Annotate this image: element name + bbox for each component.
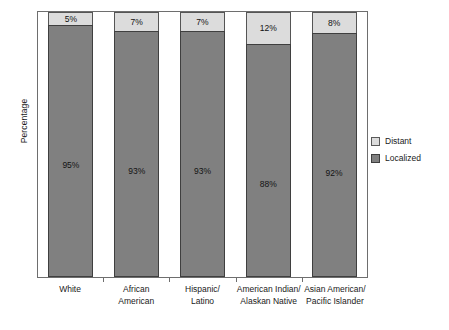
bar-segment-localized[interactable]: 93%	[180, 31, 225, 277]
bar-stack: 7% 93%	[180, 12, 225, 277]
x-axis-label-white: White	[37, 284, 103, 307]
bar-segment-distant[interactable]: 12%	[246, 12, 291, 44]
bar-segment-label: 93%	[194, 167, 211, 176]
bar-segment-distant[interactable]: 8%	[312, 12, 357, 33]
x-axis-label-line: American Indian/	[236, 284, 302, 296]
bar-slot: 7% 93%	[170, 12, 236, 277]
bar-slot: 12% 88%	[235, 12, 301, 277]
bar-slot: 5% 95%	[38, 12, 104, 277]
bar-segment-label: 7%	[196, 18, 208, 27]
bar-segment-distant[interactable]: 5%	[48, 12, 93, 25]
bar-slot: 7% 93%	[104, 12, 170, 277]
bar-slot: 8% 92%	[301, 12, 367, 277]
bar-segment-label: 95%	[62, 161, 79, 170]
legend-item-label: Localized	[385, 154, 421, 163]
x-axis-label-line: Latino	[169, 296, 235, 308]
x-axis-tick	[169, 278, 170, 282]
x-axis-label-line: Hispanic/	[169, 284, 235, 296]
legend: Distant Localized	[371, 133, 445, 167]
distant-swatch-icon	[371, 137, 380, 146]
x-axis-label-african-american: African American	[103, 284, 169, 307]
x-axis-label-line: African	[103, 284, 169, 296]
bar-stack: 7% 93%	[114, 12, 159, 277]
bar-segment-localized[interactable]: 92%	[312, 33, 357, 277]
bar-segment-localized[interactable]: 88%	[246, 44, 291, 277]
x-axis-tick	[103, 278, 104, 282]
bar-stack: 5% 95%	[48, 12, 93, 277]
legend-item-distant[interactable]: Distant	[371, 133, 445, 150]
plot-frame: 5% 95% 7% 93%	[37, 11, 368, 278]
bar-segment-label: 5%	[65, 15, 77, 24]
legend-item-localized[interactable]: Localized	[371, 150, 445, 167]
bar-segment-label: 7%	[131, 18, 143, 27]
bar-segment-label: 12%	[260, 24, 277, 33]
x-axis-label-line: American	[103, 296, 169, 308]
bar-segment-label: 93%	[128, 167, 145, 176]
x-axis-label-line: Asian American/	[302, 284, 368, 296]
bar-segment-label: 88%	[260, 180, 277, 189]
localized-swatch-icon	[371, 154, 380, 163]
x-axis-label-line: Pacific Islander	[302, 296, 368, 308]
x-axis-label-line: Alaskan Native	[236, 296, 302, 308]
bar-segment-label: 92%	[326, 169, 343, 178]
bar-segment-localized[interactable]: 93%	[114, 31, 159, 277]
x-axis-tick	[236, 278, 237, 282]
bar-segment-label: 8%	[328, 19, 340, 28]
stacked-bar-chart: Percentage 5% 95% 7%	[0, 0, 449, 330]
x-axis-tick	[302, 278, 303, 282]
plot-area: 5% 95% 7% 93%	[38, 12, 367, 277]
x-axis-label-american-indian-alaskan-native: American Indian/ Alaskan Native	[236, 284, 302, 307]
legend-item-label: Distant	[385, 137, 411, 146]
bar-segment-distant[interactable]: 7%	[180, 12, 225, 31]
x-axis-labels: White African American Hispanic/ Latino …	[37, 284, 368, 307]
y-axis-title: Percentage	[19, 81, 29, 161]
bar-stack: 12% 88%	[246, 12, 291, 277]
x-axis-label-line: White	[37, 284, 103, 296]
x-axis-label-asian-american-pacific-islander: Asian American/ Pacific Islander	[302, 284, 368, 307]
bar-segment-localized[interactable]: 95%	[48, 25, 93, 277]
bar-stack: 8% 92%	[312, 12, 357, 277]
bar-segment-distant[interactable]: 7%	[114, 12, 159, 31]
x-axis-label-hispanic-latino: Hispanic/ Latino	[169, 284, 235, 307]
x-axis-ticks	[37, 278, 368, 283]
